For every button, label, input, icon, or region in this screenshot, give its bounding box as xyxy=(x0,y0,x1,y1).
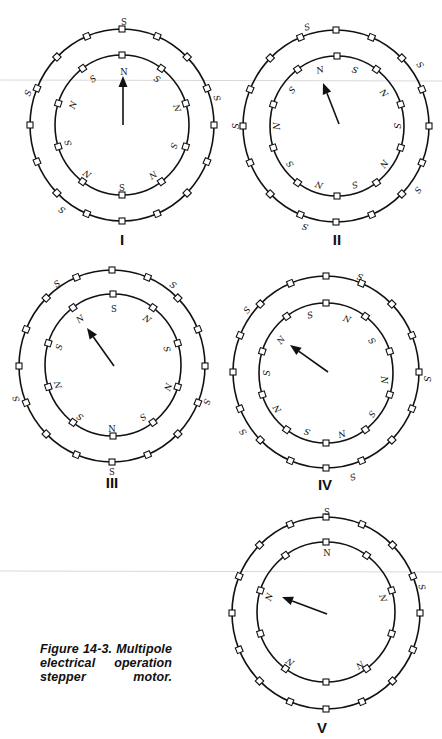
stator-tooth xyxy=(286,279,294,287)
rotor-tooth xyxy=(323,539,329,545)
diagram-group: NSSNNSSNNSSSSSINSSNNSSNNSSSSSSIISNNSSNNS… xyxy=(10,17,432,736)
rotor-tooth xyxy=(323,440,329,446)
stator-tooth xyxy=(296,211,304,219)
rotor-ring xyxy=(257,542,395,682)
stator-tooth xyxy=(194,325,202,333)
arrowhead-icon xyxy=(87,328,97,340)
rotor-pole-label: N xyxy=(147,168,160,181)
rotor-pole-label: N xyxy=(336,428,348,440)
stator-tooth xyxy=(33,158,41,166)
rotor-tooth xyxy=(388,587,396,595)
stator-tooth xyxy=(16,363,22,369)
diagram-numeral: V xyxy=(317,719,327,736)
arrowhead-icon xyxy=(282,597,294,605)
stator-pole-label: S xyxy=(237,427,249,438)
stator-tooth xyxy=(368,33,376,41)
caption-line: Figure 14-3. Multipole xyxy=(40,642,172,656)
stepper-diagram-iv: SNNSSNNSSNSSSSSIV xyxy=(230,271,432,493)
stator-tooth xyxy=(153,210,161,218)
rotor-pole-label: N xyxy=(67,99,79,111)
stepper-motor-figure: NSSNNSSNNSSSSSINSSNNSSNNSSSSSSIISNNSSNNS… xyxy=(0,0,442,739)
stator-tooth xyxy=(236,331,244,339)
stator-tooth xyxy=(22,325,30,333)
rotor-pole-label: S xyxy=(351,179,360,190)
stator-tooth xyxy=(119,218,125,224)
stator-tooth xyxy=(211,122,217,128)
diagram-numeral: III xyxy=(106,474,119,491)
stator-tooth xyxy=(202,363,208,369)
rotor-tooth xyxy=(119,52,125,58)
rotor-tooth xyxy=(110,291,116,297)
arrowhead-icon xyxy=(290,345,302,355)
scan-artifact-line xyxy=(0,80,442,81)
rotor-tooth xyxy=(259,391,267,399)
rotor-pole-label: S xyxy=(138,411,149,423)
stator-tooth xyxy=(418,159,426,167)
stator-tooth xyxy=(230,369,236,375)
stator-pole-label: S xyxy=(201,398,212,407)
rotor-tooth xyxy=(270,144,278,152)
stator-pole-label: S xyxy=(414,60,426,71)
rotor-tooth xyxy=(323,679,329,685)
stator-tooth xyxy=(323,273,329,279)
stator-tooth xyxy=(286,520,294,528)
rotor-direction-arrow xyxy=(299,351,328,372)
stator-pole-label: S xyxy=(168,279,179,291)
rotor-pole-label: N xyxy=(162,381,174,393)
rotor-pole-label: S xyxy=(75,411,86,423)
stator-tooth xyxy=(144,273,152,281)
rotor-tooth xyxy=(386,348,394,356)
stator-tooth xyxy=(22,399,30,407)
rotor-pole-label: S xyxy=(262,370,272,376)
rotor-direction-arrow xyxy=(93,337,114,366)
rotor-tooth xyxy=(397,144,405,152)
rotor-pole-label: S xyxy=(119,183,125,193)
diagram-numeral: I xyxy=(120,231,124,248)
rotor-pole-label: S xyxy=(366,409,378,420)
stator-tooth xyxy=(333,27,339,33)
rotor-tooth xyxy=(397,101,405,109)
stator-tooth xyxy=(368,211,376,219)
stator-tooth xyxy=(153,32,161,40)
stator-pole-label: S xyxy=(412,185,424,196)
rotor-pole-label: N xyxy=(270,403,283,416)
stator-tooth xyxy=(358,520,366,528)
stator-tooth xyxy=(417,610,423,616)
diagram-numeral: IV xyxy=(318,476,332,493)
rotor-tooth xyxy=(182,143,190,151)
stator-pole-label: S xyxy=(22,88,33,97)
rotor-tooth xyxy=(45,339,53,347)
rotor-tooth xyxy=(55,100,63,108)
rotor-pole-label: S xyxy=(161,345,172,354)
stator-tooth xyxy=(418,85,426,93)
stator-pole-label: S xyxy=(211,94,222,103)
rotor-tooth xyxy=(257,630,265,638)
stator-tooth xyxy=(236,405,244,413)
rotor-pole-label: N xyxy=(274,334,287,347)
stator-pole-label: S xyxy=(303,21,312,32)
rotor-pole-label: N xyxy=(140,312,153,325)
stator-tooth xyxy=(409,646,417,654)
rotor-ring xyxy=(270,56,404,196)
stator-tooth xyxy=(27,122,33,128)
rotor-pole-label: N xyxy=(313,179,325,191)
rotor-pole-label: N xyxy=(120,67,128,77)
rotor-pole-label: S xyxy=(351,64,360,75)
stator-pole-label: S xyxy=(231,123,241,129)
rotor-direction-arrow xyxy=(327,93,339,124)
stator-tooth xyxy=(83,210,91,218)
rotor-pole-label: S xyxy=(392,123,402,129)
rotor-ring xyxy=(259,303,393,443)
scan-artifact-line xyxy=(0,571,442,572)
stator-tooth xyxy=(333,219,339,225)
stator-tooth xyxy=(229,610,235,616)
stator-tooth xyxy=(72,273,80,281)
rotor-pole-label: S xyxy=(306,309,314,320)
stator-tooth xyxy=(246,159,254,167)
rotor-direction-arrow xyxy=(292,601,327,614)
stator-tooth xyxy=(83,32,91,40)
rotor-pole-label: S xyxy=(284,159,296,170)
rotor-pole-label: S xyxy=(303,426,312,437)
rotor-tooth xyxy=(174,383,182,391)
stator-tooth xyxy=(408,331,416,339)
